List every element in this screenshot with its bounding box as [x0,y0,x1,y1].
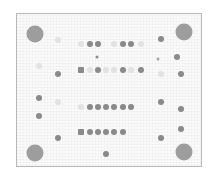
blot-spot [78,67,84,73]
blot-spot [178,71,184,77]
blot-spot [138,67,144,73]
blot-spot [95,129,101,135]
blot-spot [96,56,99,59]
blot-spot [111,67,117,73]
spot-array [0,0,218,180]
blot-spot [103,67,109,73]
blot-spot [178,126,184,132]
blot-spot [128,41,134,47]
blot-spot [78,104,84,110]
blot-spot [103,129,109,135]
blot-spot [103,104,109,110]
blot-spot [157,58,160,61]
blot-spot [111,41,117,47]
blot-spot [78,129,84,135]
blot-spot [138,41,144,47]
blot-spot [36,95,42,101]
blot-spot [158,99,164,105]
reference-spot [176,24,193,41]
reference-spot [176,144,193,161]
blot-spot [111,129,117,135]
blot-spot [95,67,101,73]
blot-spot [120,67,126,73]
blot-spot [158,71,164,77]
blot-spot [55,99,61,105]
reference-spot [27,145,44,162]
reference-spot [27,26,44,43]
blot-spot [55,71,61,77]
blot-spot [36,63,42,69]
blot-spot [78,41,84,47]
blot-spot [87,67,93,73]
blot-spot [158,135,164,141]
blot-spot [120,104,126,110]
blot-spot [103,151,109,157]
blot-spot [178,106,184,112]
blot-spot [36,113,42,119]
blot-spot [158,36,164,42]
blot-spot [95,104,101,110]
blot-spot [87,129,93,135]
blot-spot [55,37,61,43]
blot-spot [128,104,134,110]
blot-spot [128,67,134,73]
blot-spot [87,41,93,47]
blot-spot [95,41,101,47]
blot-spot [55,135,61,141]
blot-spot [174,54,180,60]
blot-spot [120,129,126,135]
blot-spot [111,104,117,110]
blot-spot [120,41,126,47]
blot-spot [87,104,93,110]
